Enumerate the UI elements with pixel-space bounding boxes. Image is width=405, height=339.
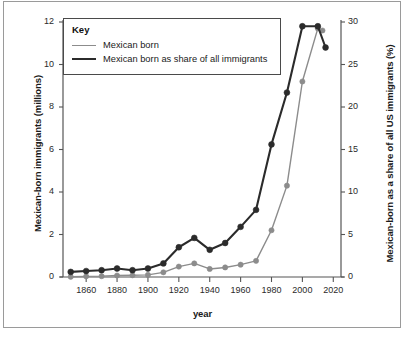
data-point (223, 265, 228, 270)
data-point (191, 235, 197, 241)
data-point (145, 272, 150, 277)
data-point (253, 258, 258, 263)
data-point (323, 45, 329, 51)
data-point (238, 262, 243, 267)
y-tick-label-left: 6 (30, 144, 54, 154)
data-point (269, 142, 275, 148)
y-tick-label-left: 4 (30, 186, 54, 196)
y-tick-label-right: 5 (348, 229, 372, 239)
legend-item-label: Mexican born (103, 40, 159, 50)
data-point (300, 79, 305, 84)
data-point (222, 240, 228, 246)
data-point (99, 267, 105, 273)
data-point (84, 274, 89, 279)
data-point (284, 183, 289, 188)
y-tick-label-left: 0 (30, 271, 54, 281)
data-point (99, 274, 104, 279)
y-tick-label-right: 30 (348, 16, 372, 26)
data-point (130, 273, 135, 278)
data-point (315, 23, 321, 29)
y-tick-label-left: 10 (30, 59, 54, 69)
data-point (114, 273, 119, 278)
data-point (269, 228, 274, 233)
data-point (238, 224, 244, 230)
y-axis-right-title: Mexican-born as a share of all US immigr… (384, 29, 395, 279)
data-point (253, 207, 259, 213)
legend-item: Mexican born as share of all immigrants (72, 52, 272, 66)
y-tick-label-right: 10 (348, 186, 372, 196)
x-axis-title: year (0, 308, 405, 319)
legend-title: Key (72, 24, 272, 35)
legend-item-label: Mexican born as share of all immigrants (103, 54, 267, 64)
y-tick-label-left: 12 (30, 16, 54, 26)
y-tick-label-left: 8 (30, 101, 54, 111)
legend-line-icon (72, 45, 96, 46)
data-point (176, 264, 181, 269)
data-point (114, 266, 120, 272)
legend-line-icon (72, 58, 96, 60)
data-point (160, 261, 166, 267)
data-point (176, 244, 182, 250)
y-tick-label-right: 25 (348, 59, 372, 69)
data-point (83, 268, 89, 274)
y-tick-label-right: 20 (348, 101, 372, 111)
y-tick-label-right: 15 (348, 144, 372, 154)
x-tick-label: 2020 (313, 285, 353, 295)
data-point (192, 261, 197, 266)
data-point (161, 270, 166, 275)
legend-items: Mexican bornMexican born as share of all… (72, 38, 272, 66)
data-point (130, 267, 136, 273)
chart-figure: Mexican-born immigrants (millions) Mexic… (0, 0, 405, 339)
data-point (68, 269, 74, 275)
y-tick-label-right: 0 (348, 271, 372, 281)
data-point (284, 90, 290, 96)
legend-item: Mexican born (72, 38, 272, 52)
data-point (145, 266, 151, 272)
data-point (207, 247, 213, 253)
data-point (299, 23, 305, 29)
data-point (207, 266, 212, 271)
legend: Key Mexican bornMexican born as share of… (63, 18, 281, 75)
y-tick-label-left: 2 (30, 229, 54, 239)
